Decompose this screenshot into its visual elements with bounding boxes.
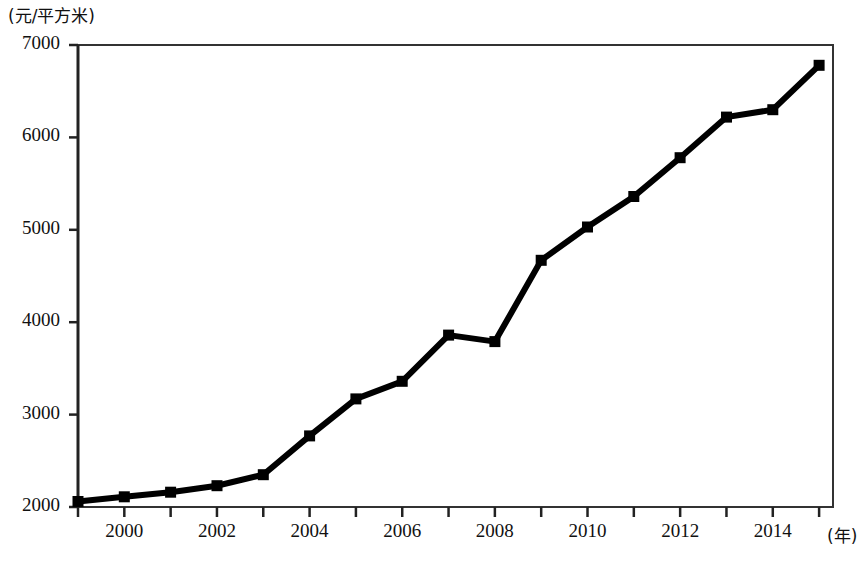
x-axis-ticks — [78, 507, 819, 517]
data-series-line — [78, 65, 819, 501]
axis-frame — [78, 45, 833, 507]
